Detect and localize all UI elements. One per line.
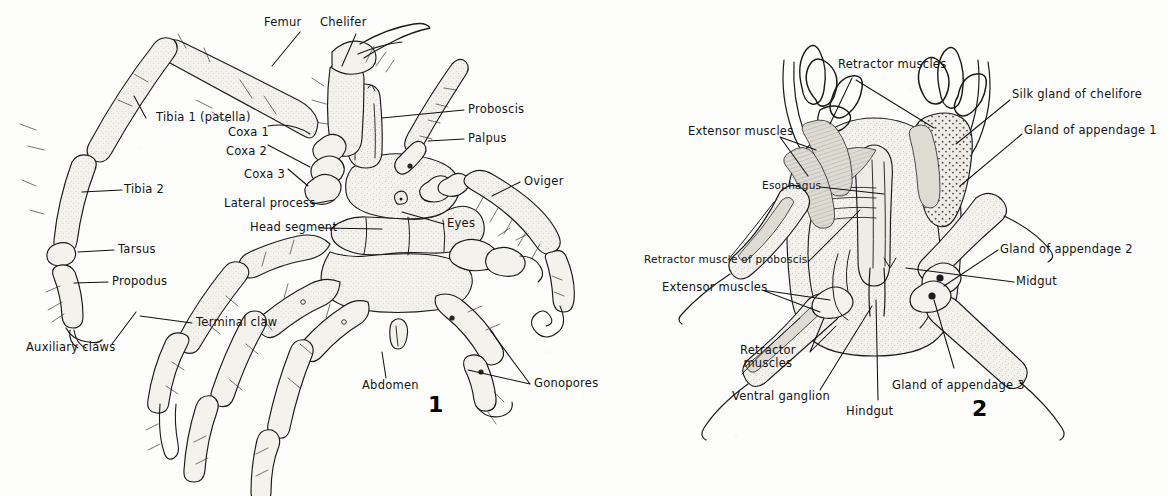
label-midgut: Midgut bbox=[1016, 275, 1057, 288]
label-retractor-muscles-lower: Retractor muscles bbox=[740, 344, 796, 370]
figure-1-number: 1 bbox=[428, 392, 443, 417]
label-ventral-ganglion: Ventral ganglion bbox=[732, 390, 830, 403]
label-coxa-2: Coxa 2 bbox=[226, 145, 267, 158]
figure-1-drawing bbox=[0, 0, 584, 496]
label-femur: Femur bbox=[264, 16, 302, 29]
label-auxiliary-claws: Auxiliary claws bbox=[26, 341, 116, 354]
label-retractor-muscle-of-proboscis: Retractor muscle of proboscis bbox=[644, 254, 808, 266]
figure-2-internal-anatomy: Retractor muscles Extensor muscles Esoph… bbox=[584, 0, 1168, 496]
label-chelifer: Chelifer bbox=[320, 16, 367, 29]
label-hindgut: Hindgut bbox=[846, 405, 893, 418]
label-silk-gland-of-chelifore: Silk gland of chelifore bbox=[1012, 88, 1142, 101]
label-esophagus: Esophagus bbox=[762, 180, 821, 192]
retractor-muscles-line-2: muscles bbox=[743, 356, 792, 370]
label-tibia-2: Tibia 2 bbox=[124, 183, 164, 196]
palpus-appendage bbox=[395, 59, 469, 174]
label-palpus: Palpus bbox=[468, 132, 507, 145]
label-terminal-claw: Terminal claw bbox=[196, 316, 277, 329]
label-oviger: Oviger bbox=[524, 175, 564, 188]
label-extensor-muscles-lower: Extensor muscles bbox=[662, 281, 767, 294]
label-gland-of-appendage-3: Gland of appendage 3 bbox=[892, 379, 1025, 392]
label-lateral-process: Lateral process bbox=[224, 197, 316, 210]
label-retractor-muscles-top: Retractor muscles bbox=[838, 58, 946, 71]
label-gland-of-appendage-2: Gland of appendage 2 bbox=[1000, 243, 1133, 256]
label-eyes: Eyes bbox=[447, 217, 475, 230]
label-tibia-1: Tibia 1 (patella) bbox=[156, 111, 251, 124]
figure-1-external-anatomy: Femur Chelifer Proboscis Palpus Tibia 1 … bbox=[0, 0, 584, 496]
label-extensor-muscles-top: Extensor muscles bbox=[688, 125, 793, 138]
anatomy-plate: Femur Chelifer Proboscis Palpus Tibia 1 … bbox=[0, 0, 1168, 496]
label-gland-of-appendage-1: Gland of appendage 1 bbox=[1024, 124, 1157, 137]
label-propodus: Propodus bbox=[112, 275, 167, 288]
label-head-segment: Head segment bbox=[250, 221, 337, 234]
figure-2-number: 2 bbox=[972, 396, 987, 421]
label-coxa-3: Coxa 3 bbox=[244, 168, 285, 181]
label-coxa-1: Coxa 1 bbox=[228, 126, 269, 139]
leg-right-gonopore bbox=[435, 294, 512, 424]
label-tarsus: Tarsus bbox=[118, 243, 156, 256]
abdomen-structure bbox=[390, 319, 408, 349]
label-proboscis: Proboscis bbox=[468, 103, 524, 116]
label-abdomen: Abdomen bbox=[362, 379, 419, 392]
